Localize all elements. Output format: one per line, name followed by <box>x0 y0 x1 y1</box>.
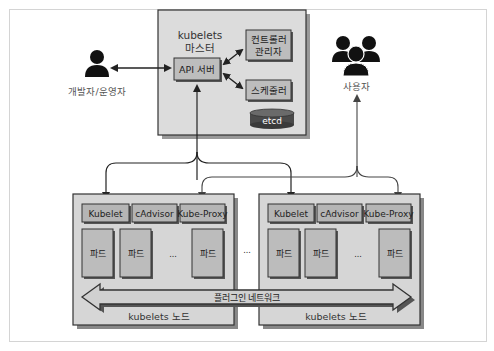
users-label: 사용자 <box>343 81 370 92</box>
master-title-line2: 마스터 <box>185 42 215 54</box>
etcd-cylinder: etcd <box>250 109 294 129</box>
node1-pod-3: 파드 <box>192 229 225 279</box>
node2-pod-1-label: 파드 <box>276 249 292 259</box>
api-server-box: API 서버 <box>174 58 222 82</box>
master-title-line1: kubelets <box>178 29 223 41</box>
node1-cadvisor: cAdvisor <box>132 204 179 224</box>
node2-pod-ellipsis: ... <box>354 250 362 259</box>
plugin-network-label: 플러그인 네트워크 <box>214 293 281 303</box>
node2-kubelet-label: Kubelet <box>274 209 308 219</box>
developer-label: 개발자/운영자 <box>68 86 125 97</box>
node1-pod-ellipsis: ... <box>169 250 177 259</box>
node1-pod-1: 파드 <box>82 229 115 279</box>
api-server-label: API 서버 <box>179 64 215 75</box>
node1-kube-proxy-label: Kube-Proxy <box>177 209 228 219</box>
controller-manager-box: 컨트롤러 관리자 <box>246 30 293 62</box>
node1-kubelet: Kubelet <box>82 204 131 224</box>
scheduler-label: 스케줄러 <box>251 85 287 96</box>
node1-pod-2: 파드 <box>120 229 153 279</box>
node2-pod-3: 파드 <box>379 229 412 279</box>
node2-pod-2-label: 파드 <box>313 249 329 259</box>
node2-cadvisor-label: cAdvisor <box>320 209 359 219</box>
node1-pod-1-label: 파드 <box>90 249 106 259</box>
node2-kube-proxy-label: Kube-Proxy <box>363 209 414 219</box>
node1-cadvisor-label: cAdvisor <box>135 209 174 219</box>
node2-pod-3-label: 파드 <box>387 249 403 259</box>
controller-label-line1: 컨트롤러 <box>251 34 287 45</box>
node1-kube-proxy: Kube-Proxy <box>177 204 228 224</box>
architecture-diagram: kubelets 마스터 API 서버 컨트롤러 관리자 스케줄러 etcd 개… <box>0 0 494 351</box>
node1-pod-3-label: 파드 <box>200 249 216 259</box>
node1-pod-2-label: 파드 <box>128 249 144 259</box>
node2-pod-1: 파드 <box>268 229 301 279</box>
node2-kubelet: Kubelet <box>268 204 316 224</box>
etcd-label: etcd <box>262 116 282 126</box>
scheduler-box: 스케줄러 <box>246 80 293 102</box>
node2-pod-2: 파드 <box>305 229 338 279</box>
node2-cadvisor: cAdvisor <box>317 204 364 224</box>
controller-label-line2: 관리자 <box>255 46 282 57</box>
between-nodes-ellipsis: ... <box>243 246 251 255</box>
node1-label: kubelets 노드 <box>128 311 189 322</box>
node2-label: kubelets 노드 <box>305 311 366 322</box>
node1-kubelet-label: Kubelet <box>89 209 123 219</box>
node2-kube-proxy: Kube-Proxy <box>363 204 414 224</box>
